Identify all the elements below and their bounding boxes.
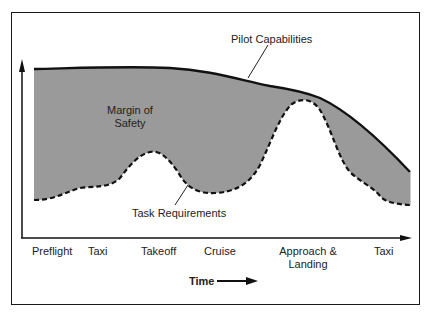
x-tick-taxi-1: Taxi: [88, 245, 108, 258]
x-tick-preflight: Preflight: [32, 245, 72, 258]
time-arrow-icon: [246, 277, 258, 285]
x-tick-takeoff: Takeoff: [141, 245, 176, 258]
approach-line2: Landing: [272, 258, 344, 271]
task-requirements-label: Task Requirements: [132, 207, 226, 220]
x-tick-approach-landing: Approach & Landing: [272, 245, 344, 271]
pilot-capabilities-label: Pilot Capabilities: [231, 33, 312, 46]
x-axis-title: Time: [189, 275, 214, 288]
x-tick-taxi-2: Taxi: [374, 245, 394, 258]
task-requirements-leader: [175, 185, 188, 205]
approach-line1: Approach &: [272, 245, 344, 258]
x-axis-arrow-icon: [400, 235, 412, 241]
safety-margin-chart: [0, 0, 432, 314]
margin-of-safety-area: [34, 67, 410, 205]
y-axis-arrow-icon: [19, 59, 25, 72]
pilot-capabilities-leader: [248, 45, 268, 78]
x-tick-cruise: Cruise: [204, 245, 236, 258]
margin-of-safety-label: Margin of Safety: [95, 104, 165, 130]
margin-line2: Safety: [95, 117, 165, 130]
margin-line1: Margin of: [95, 104, 165, 117]
